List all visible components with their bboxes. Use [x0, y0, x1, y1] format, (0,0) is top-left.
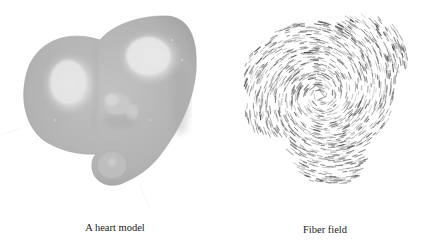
fiber-field-panel: Fiber field [213, 0, 427, 244]
fiber-field-caption: Fiber field [303, 224, 347, 235]
fiber-strokes [244, 14, 407, 184]
heart-model-caption: A heart model [85, 222, 144, 233]
heart-model-panel: A heart model [0, 0, 213, 244]
fiber-field-image [213, 0, 427, 244]
heart-model-image [0, 0, 213, 244]
